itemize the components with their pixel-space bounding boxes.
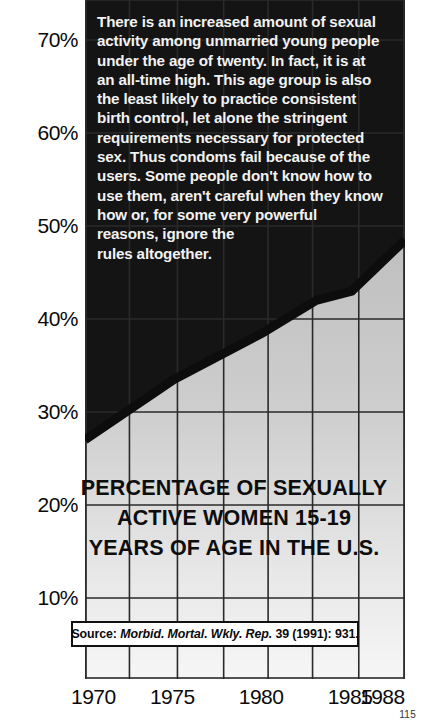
y-tick-70: 70% (0, 29, 78, 50)
source-text: Source: Morbid. Mortal. Wkly. Rep. 39 (1… (71, 627, 358, 641)
chart-title-line-3: YEARS OF AGE IN THE U.S. (60, 533, 408, 563)
y-tick-10: 10% (0, 587, 78, 608)
x-tick-1988: 1988 (360, 686, 405, 707)
chart-title: PERCENTAGE OF SEXUALLY ACTIVE WOMEN 15-1… (60, 473, 408, 563)
narrative-text: There is an increased amount of sexual a… (97, 12, 409, 263)
source-box: Source: Morbid. Mortal. Wkly. Rep. 39 (1… (71, 621, 359, 647)
y-tick-40: 40% (0, 308, 78, 329)
source-citation: 39 (1991): 931. (275, 627, 358, 641)
chart-title-line-2: ACTIVE WOMEN 15-19 (60, 503, 408, 533)
page-number: 115 (399, 709, 416, 720)
chart-title-line-1: PERCENTAGE OF SEXUALLY (60, 473, 408, 503)
y-tick-60: 60% (0, 122, 78, 143)
x-tick-1980: 1980 (239, 686, 284, 707)
y-tick-30: 30% (0, 401, 78, 422)
y-tick-50: 50% (0, 215, 78, 236)
x-tick-1975: 1975 (150, 686, 195, 707)
source-label: Source: (71, 627, 116, 641)
chart-page: 70%60%50%40%30%20%10% 197019751980198519… (0, 0, 424, 726)
x-tick-1970: 1970 (71, 686, 116, 707)
source-journal: Morbid. Mortal. Wkly. Rep. (120, 627, 272, 641)
